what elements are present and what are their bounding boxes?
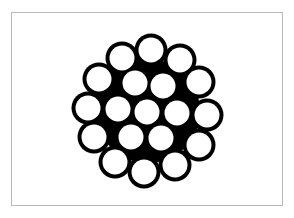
wire-circle [165,101,190,126]
wire-circle [163,153,188,178]
wire-circle [139,38,164,63]
wire-circle [119,125,144,150]
wire-circle [187,70,212,95]
wire-strand-diagram [0,0,294,218]
wire-circle [82,125,107,150]
wire-circle [106,97,131,122]
wire-circle [132,160,157,185]
wire-circle [76,96,101,121]
wire-circle [110,46,135,71]
wire-circle [187,133,212,158]
wire-circle [103,150,128,175]
wire-circle [87,67,112,92]
wire-circle [151,74,176,99]
wire-circle [149,126,174,151]
wires [76,38,220,185]
wire-circle [135,100,160,125]
wire-circle [123,71,148,96]
wire-circle [195,103,220,128]
wire-circle [168,48,193,73]
